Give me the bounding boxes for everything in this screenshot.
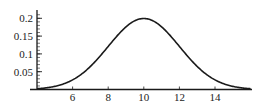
density-curve: [37, 18, 251, 88]
y-tick-label: 0.1: [19, 48, 33, 60]
x-tick-label: 10: [138, 91, 150, 103]
x-tick-label: 6: [70, 91, 76, 103]
x-tick-label: 8: [105, 91, 111, 103]
normal-distribution-chart: 0.050.10.150.2 68101214: [0, 0, 264, 104]
y-tick-label: 0.05: [14, 66, 34, 78]
y-tick-label: 0.2: [19, 12, 33, 24]
x-tick-label: 12: [174, 91, 185, 103]
x-tick-label: 14: [210, 91, 222, 103]
y-tick-label: 0.15: [14, 30, 34, 42]
